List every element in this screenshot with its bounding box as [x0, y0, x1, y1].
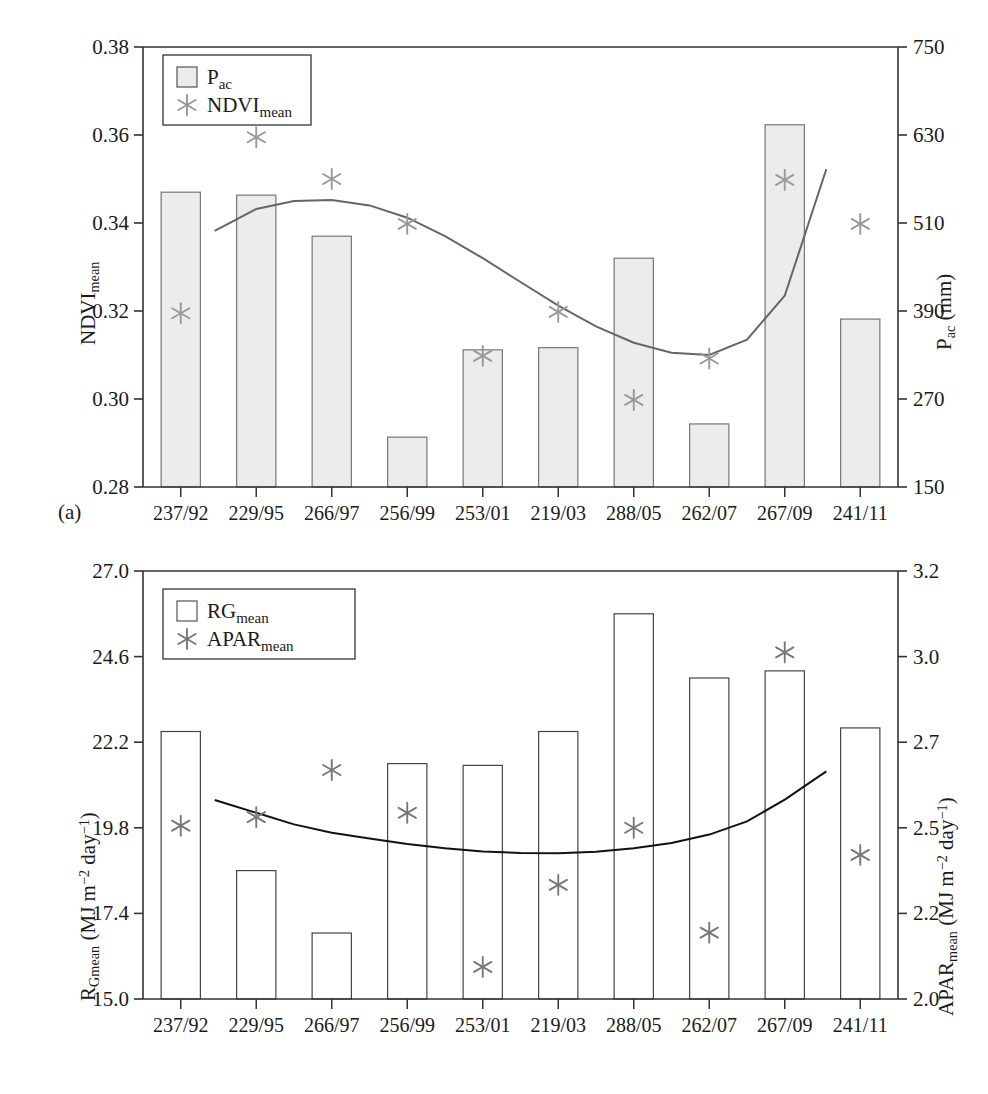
y2-tick-label: 150	[913, 475, 945, 499]
x-tick-label: 267/09	[757, 1014, 813, 1036]
panel-a-plot: 0.280.300.320.340.360.381502703905106307…	[0, 0, 988, 548]
x-tick-label: 219/03	[530, 502, 586, 524]
x-tick-label: 237/92	[153, 1014, 209, 1036]
bar	[765, 671, 804, 999]
bar	[312, 236, 351, 487]
y2-tick-label: 630	[913, 123, 945, 147]
y-tick-label: 0.30	[92, 387, 129, 411]
y-tick-label: 0.28	[92, 475, 129, 499]
y-tick-label: 0.38	[92, 35, 129, 59]
asterisk-marker	[550, 302, 567, 322]
y2-tick-label: 3.0	[913, 645, 939, 669]
x-tick-label: 253/01	[455, 502, 511, 524]
asterisk-marker	[248, 127, 265, 147]
y-tick-label: 0.32	[92, 299, 129, 323]
x-tick-label: 262/07	[681, 1014, 737, 1036]
legend-swatch-bar	[177, 601, 197, 621]
figure-container: (a) NDVImean Pac (mm) 0.280.300.320.340.…	[0, 0, 988, 1094]
x-tick-label: 253/01	[455, 1014, 511, 1036]
x-tick-label: 266/97	[304, 1014, 360, 1036]
y2-tick-label: 390	[913, 299, 945, 323]
y2-tick-label: 510	[913, 211, 945, 235]
bar	[161, 192, 200, 487]
bar	[237, 871, 276, 999]
asterisk-marker	[323, 760, 340, 780]
bar	[614, 258, 653, 487]
bar	[388, 764, 427, 999]
x-tick-label: 229/95	[228, 1014, 284, 1036]
chart-panel-b: (b) RGmean (MJ m−2 day−1) APARmean (MJ m…	[0, 546, 988, 1094]
x-tick-label: 262/07	[681, 502, 737, 524]
x-tick-label: 241/11	[833, 1014, 888, 1036]
asterisk-marker	[323, 169, 340, 189]
x-tick-label: 267/09	[757, 502, 813, 524]
panel-b-plot: 15.017.419.822.224.627.02.02.22.52.73.03…	[0, 546, 988, 1094]
bar	[841, 319, 880, 487]
x-tick-label: 256/99	[379, 1014, 435, 1036]
y-tick-label: 24.6	[92, 645, 129, 669]
bar	[690, 424, 729, 487]
bar	[161, 732, 200, 1000]
y-tick-label: 19.8	[92, 816, 129, 840]
y-tick-label: 0.34	[92, 211, 129, 235]
y-tick-label: 15.0	[92, 987, 129, 1011]
bar	[388, 437, 427, 487]
asterisk-marker	[852, 214, 869, 234]
y-tick-label: 27.0	[92, 559, 129, 583]
y2-tick-label: 2.0	[913, 987, 939, 1011]
bar	[237, 195, 276, 487]
legend-swatch-bar	[177, 67, 197, 87]
y-tick-label: 17.4	[92, 901, 129, 925]
x-tick-label: 288/05	[606, 502, 662, 524]
x-tick-label: 288/05	[606, 1014, 662, 1036]
trend-line	[215, 771, 827, 853]
chart-panel-a: (a) NDVImean Pac (mm) 0.280.300.320.340.…	[0, 0, 988, 548]
bar	[312, 933, 351, 999]
y2-tick-label: 2.5	[913, 816, 939, 840]
bar	[463, 350, 502, 487]
x-tick-label: 266/97	[304, 502, 360, 524]
asterisk-marker	[399, 214, 416, 234]
asterisk-marker	[776, 642, 793, 662]
y2-tick-label: 3.2	[913, 559, 939, 583]
y2-tick-label: 270	[913, 387, 945, 411]
x-tick-label: 256/99	[379, 502, 435, 524]
x-tick-label: 241/11	[833, 502, 888, 524]
bar	[614, 614, 653, 999]
y2-tick-label: 2.7	[913, 730, 939, 754]
y2-tick-label: 750	[913, 35, 945, 59]
x-tick-label: 219/03	[530, 1014, 586, 1036]
y-tick-label: 22.2	[92, 730, 129, 754]
bar	[539, 348, 578, 487]
bar	[539, 732, 578, 1000]
x-tick-label: 237/92	[153, 502, 209, 524]
y-tick-label: 0.36	[92, 123, 129, 147]
x-tick-label: 229/95	[228, 502, 284, 524]
trend-line	[215, 169, 827, 355]
y2-tick-label: 2.2	[913, 901, 939, 925]
